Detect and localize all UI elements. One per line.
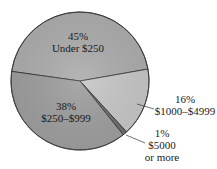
name-under-250: Under $250 bbox=[52, 42, 104, 54]
pct-250-999: 38% bbox=[41, 100, 91, 112]
name-5000-line1: $5000 bbox=[145, 139, 180, 151]
pct-under-250: 45% bbox=[52, 30, 104, 42]
pie-chart bbox=[0, 0, 217, 169]
leader-line-5000 bbox=[126, 135, 145, 143]
slice-label-1000-4999: 16% $1000–$4999 bbox=[155, 93, 216, 117]
name-250-999: $250–$999 bbox=[41, 112, 91, 124]
pct-5000: 1% bbox=[145, 127, 180, 139]
name-5000-line2: or more bbox=[145, 151, 180, 163]
slice-label-5000: 1% $5000 or more bbox=[145, 127, 180, 163]
name-1000-4999: $1000–$4999 bbox=[155, 105, 216, 117]
pct-1000-4999: 16% bbox=[155, 93, 216, 105]
slice-label-250-999: 38% $250–$999 bbox=[41, 100, 91, 124]
slice-label-under-250: 45% Under $250 bbox=[52, 30, 104, 54]
